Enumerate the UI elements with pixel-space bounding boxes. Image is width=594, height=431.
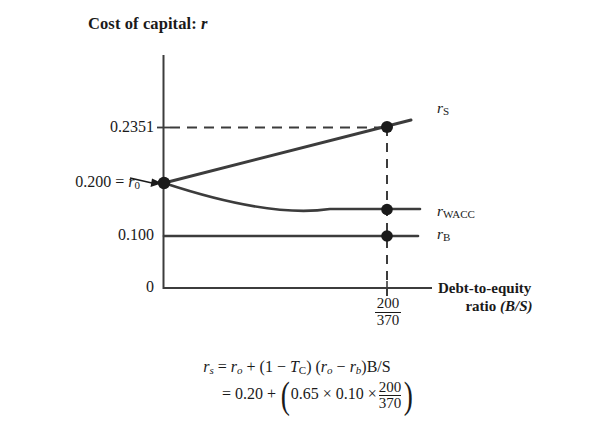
- eq1-minus-1: −: [277, 358, 290, 375]
- curve-rs: [164, 120, 411, 183]
- eq2-inner-a: 0.65: [291, 386, 323, 403]
- curve-rwacc: [164, 183, 420, 211]
- x-tick-label-200-370: 200 370: [357, 296, 419, 329]
- x-tick-fraction-denominator: 370: [375, 312, 402, 329]
- y-tick-label-0100: 0.100: [62, 227, 154, 243]
- cost-of-capital-figure: Cost of capital: r 0.2351 0.2: [0, 0, 594, 431]
- eq2-open-paren: (: [281, 384, 290, 408]
- eq1-plus-open: + (1: [243, 358, 277, 375]
- eq1-tc-base: T: [290, 358, 299, 375]
- eq2-times-1: ×: [323, 386, 332, 403]
- eq1-minus-2: −: [333, 358, 350, 375]
- eq2-fraction-denominator: 370: [379, 395, 402, 411]
- eq1-tail: )B/S: [361, 358, 390, 375]
- curve-label-rs-sub: S: [443, 105, 449, 117]
- marker-rs-endpoint: [381, 121, 393, 133]
- marker-origin-r0: [158, 177, 170, 189]
- eq2-close-paren: ): [404, 384, 413, 408]
- r0-callout-label: 0.200 = r0: [22, 174, 140, 191]
- x-axis-title-line2: ratio: [465, 298, 496, 314]
- marker-rwacc-endpoint: [381, 204, 393, 216]
- x-axis-title-line1: Debt-to-equity: [438, 280, 531, 296]
- equation-line-1: rs = ro + (1 − TC) (ro − rb)B/S: [0, 358, 594, 377]
- x-axis-title: Debt-to-equity ratio (B/S): [438, 279, 588, 316]
- equation-line-2: = 0.20 + (0.65 × 0.10 ×200370): [0, 380, 594, 412]
- y-tick-label-2351: 0.2351: [62, 119, 154, 135]
- eq2-fraction: 200370: [379, 380, 402, 412]
- eq2-inner-b: 0.10: [332, 386, 368, 403]
- y-tick-label-zero: 0: [62, 279, 154, 295]
- eq2-equals-value: = 0.20 +: [222, 386, 280, 403]
- curve-label-rwacc: rWACC: [437, 203, 475, 220]
- r0-callout-value: 0.200 =: [75, 173, 128, 190]
- eq1-mid: ) (: [306, 358, 321, 375]
- x-axis-title-line2-wrap: ratio (B/S): [438, 297, 560, 315]
- curve-label-rb-sub: B: [443, 231, 450, 243]
- r0-callout-subscript: 0: [135, 179, 141, 191]
- curve-label-rwacc-sub: WACC: [443, 208, 475, 220]
- marker-rb-endpoint: [381, 230, 393, 242]
- curve-label-rs: rS: [437, 100, 449, 117]
- x-axis-title-symbol: (B/S): [500, 298, 533, 314]
- eq2-times-2: ×: [368, 386, 377, 403]
- curve-label-rb: rB: [437, 226, 450, 243]
- eq1-equals: =: [214, 358, 231, 375]
- equation-block: rs = ro + (1 − TC) (ro − rb)B/S = 0.20 +…: [0, 358, 594, 412]
- x-tick-fraction: 200 370: [375, 296, 402, 329]
- eq2-fraction-numerator: 200: [379, 380, 402, 395]
- x-tick-fraction-numerator: 200: [375, 296, 402, 312]
